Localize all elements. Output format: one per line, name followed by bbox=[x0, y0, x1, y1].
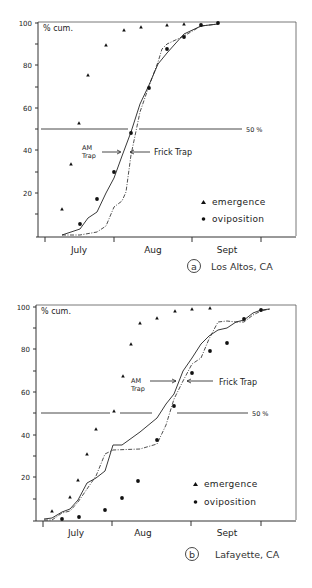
triangle-marker-icon bbox=[193, 482, 198, 486]
circle-marker-icon bbox=[194, 500, 198, 504]
legend-label-emergence: emergence bbox=[212, 197, 266, 207]
emergence-point bbox=[165, 23, 169, 26]
oviposition-point bbox=[147, 86, 151, 90]
oviposition-point bbox=[136, 479, 140, 483]
oviposition-point bbox=[112, 170, 116, 174]
chart-b: 100 80 60 40 20 July Aug Sept % cum. 50 … bbox=[17, 304, 296, 561]
emergence-point bbox=[122, 28, 126, 31]
oviposition-point bbox=[190, 371, 194, 375]
legend-b: emergence oviposition bbox=[193, 479, 258, 507]
oviposition-points bbox=[78, 21, 220, 226]
oviposition-point bbox=[216, 21, 220, 25]
y-tick-label: 80 bbox=[21, 346, 30, 354]
y-tick-label: 60 bbox=[23, 105, 32, 113]
legend-label-oviposition: oviposition bbox=[204, 497, 256, 507]
emergence-point bbox=[68, 495, 72, 498]
y-tick-label: 40 bbox=[21, 432, 30, 440]
legend-a: emergence oviposition bbox=[201, 197, 266, 224]
figure: 100 80 60 40 20 July Aug Sept % cum. 50 … bbox=[0, 0, 312, 588]
x-month-label: July bbox=[70, 245, 88, 255]
y-tick-label: 20 bbox=[21, 474, 30, 482]
x-month-label: Aug bbox=[134, 528, 152, 538]
emergence-point bbox=[77, 121, 81, 124]
oviposition-point bbox=[103, 508, 107, 512]
y-tick-label: 80 bbox=[23, 62, 32, 70]
triangle-marker-icon bbox=[201, 200, 206, 204]
y-axis-label: % cum. bbox=[43, 24, 73, 33]
x-month-label: Sept bbox=[217, 245, 238, 255]
oviposition-point bbox=[225, 341, 229, 345]
am-trap-label: Trap bbox=[81, 152, 96, 160]
oviposition-point bbox=[60, 517, 64, 521]
oviposition-point bbox=[182, 35, 186, 39]
oviposition-point bbox=[165, 47, 169, 51]
emergence-point bbox=[129, 342, 133, 345]
y-tick-label: 40 bbox=[23, 147, 32, 155]
x-month-label: Aug bbox=[144, 245, 162, 255]
y-tick-label: 100 bbox=[19, 20, 32, 28]
emergence-point bbox=[104, 43, 108, 46]
oviposition-point bbox=[129, 131, 133, 135]
oviposition-point bbox=[172, 404, 176, 408]
x-ticks-a bbox=[45, 237, 261, 242]
emergence-point bbox=[155, 316, 159, 319]
emergence-point bbox=[69, 162, 73, 165]
am-trap-label: AM bbox=[82, 144, 92, 152]
emergence-point bbox=[208, 306, 212, 309]
oviposition-point bbox=[259, 308, 263, 312]
oviposition-point bbox=[95, 197, 99, 201]
oviposition-point bbox=[120, 496, 124, 500]
am-trap-label: AM bbox=[131, 377, 141, 385]
y-tick-label: 20 bbox=[23, 190, 32, 198]
y-tick-label: 100 bbox=[17, 304, 30, 312]
oviposition-point bbox=[199, 23, 203, 27]
emergence-point bbox=[121, 374, 125, 377]
x-month-label: July bbox=[67, 528, 85, 538]
emergence-point bbox=[173, 309, 177, 312]
panel-letter: b bbox=[189, 549, 195, 560]
emergence-point bbox=[94, 427, 98, 430]
oviposition-point bbox=[155, 438, 159, 442]
fifty-percent-label: 50 % bbox=[252, 410, 269, 418]
emergence-point bbox=[190, 307, 194, 310]
am-trap-curve bbox=[62, 24, 218, 235]
oviposition-point bbox=[77, 515, 81, 519]
oviposition-point bbox=[208, 349, 212, 353]
y-axis-label: % cum. bbox=[41, 307, 71, 316]
panel-letter: a bbox=[191, 261, 197, 272]
frick-trap-curve bbox=[62, 24, 218, 235]
emergence-point bbox=[112, 409, 116, 412]
circle-marker-icon bbox=[202, 217, 206, 221]
fifty-percent-label: 50 % bbox=[246, 126, 263, 134]
chart-a: 100 80 60 40 20 July Aug Sept % cum. 50 … bbox=[19, 20, 296, 273]
emergence-point bbox=[86, 73, 90, 76]
location-label: Los Altos, CA bbox=[211, 261, 273, 272]
am-trap-label: Trap bbox=[130, 385, 145, 393]
emergence-point bbox=[50, 509, 54, 512]
frick-trap-label: Frick Trap bbox=[154, 148, 192, 157]
emergence-point bbox=[60, 207, 64, 210]
emergence-points bbox=[50, 306, 212, 512]
oviposition-point bbox=[242, 317, 246, 321]
emergence-point bbox=[85, 452, 89, 455]
emergence-point bbox=[76, 478, 80, 481]
y-tick-label: 60 bbox=[21, 389, 30, 397]
emergence-point bbox=[139, 25, 143, 28]
x-month-label: Sept bbox=[217, 528, 238, 538]
location-label: Lafayette, CA bbox=[215, 549, 280, 560]
x-ticks-b bbox=[43, 521, 261, 527]
emergence-point bbox=[138, 321, 142, 324]
emergence-point bbox=[182, 22, 186, 25]
legend-label-emergence: emergence bbox=[204, 479, 258, 489]
legend-label-oviposition: oviposition bbox=[212, 214, 264, 224]
oviposition-point bbox=[78, 222, 82, 226]
frick-trap-label: Frick Trap bbox=[219, 378, 257, 387]
